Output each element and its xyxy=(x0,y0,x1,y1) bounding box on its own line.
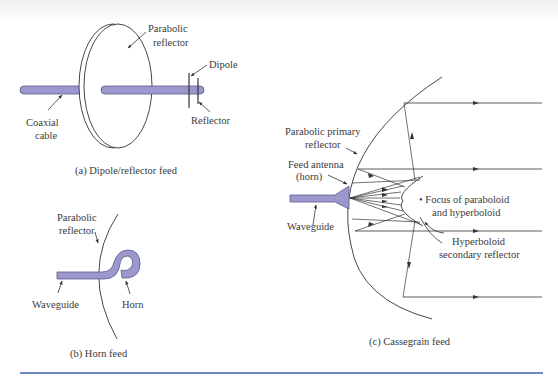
label-parabolic-primary-reflector-2: reflector xyxy=(305,139,341,150)
antenna-feed-diagram: Parabolic reflector Dipole Reflector Coa… xyxy=(0,0,558,380)
label-dipole: Dipole xyxy=(209,59,238,70)
label-hyperboloid-secondary-2: secondary reflector xyxy=(439,249,520,260)
waveguide-horn xyxy=(57,250,140,279)
panel-c-cassegrain-feed: Parabolic primary reflector Feed antenna… xyxy=(285,77,542,348)
label-focus-2: and hyperboloid xyxy=(432,207,501,218)
label-parabolic-reflector: Parabolic xyxy=(57,212,97,223)
label-feed-antenna-2: (horn) xyxy=(296,171,323,183)
label-waveguide: Waveguide xyxy=(32,299,79,310)
cassegrain-waveguide-horn xyxy=(290,186,349,209)
panel-b-horn-feed: Parabolic reflector Waveguide Horn (b) H… xyxy=(32,212,144,360)
label-focus: • Focus of paraboloid xyxy=(419,194,510,205)
label-hyperboloid-secondary: Hyperboloid xyxy=(452,236,506,247)
label-reflector: Reflector xyxy=(191,115,231,126)
label-parabolic-reflector-2: reflector xyxy=(59,225,95,236)
caption-panel-a: (a) Dipole/reflector feed xyxy=(75,165,178,177)
coaxial-cable xyxy=(20,86,82,94)
label-parabolic-reflector: Parabolic xyxy=(148,23,188,34)
caption-panel-b: (b) Horn feed xyxy=(70,348,128,360)
label-coaxial-cable-2: cable xyxy=(35,130,57,141)
label-horn: Horn xyxy=(122,299,144,310)
ray-arrowheads xyxy=(368,132,414,269)
label-parabolic-reflector-2: reflector xyxy=(153,37,189,48)
label-feed-antenna: Feed antenna xyxy=(288,159,344,170)
panel-a-dipole-reflector-feed: Parabolic reflector Dipole Reflector Coa… xyxy=(20,23,238,177)
label-waveguide: Waveguide xyxy=(287,221,334,232)
caption-panel-c: (c) Cassegrain feed xyxy=(369,336,451,348)
label-parabolic-primary-reflector: Parabolic primary xyxy=(285,126,361,137)
label-coaxial-cable: Coaxial xyxy=(26,117,59,128)
